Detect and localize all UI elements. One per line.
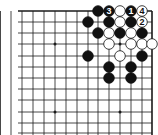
black-stone-icon xyxy=(137,51,148,62)
black-stone[interactable] xyxy=(104,73,115,84)
white-stone[interactable] xyxy=(115,51,126,62)
black-stone[interactable] xyxy=(126,73,137,84)
move-number-label: 4 xyxy=(139,6,144,16)
black-stone-icon xyxy=(115,28,126,39)
white-stone-move-4[interactable]: 4 xyxy=(137,6,148,17)
white-stone[interactable] xyxy=(147,39,158,50)
white-stone-icon xyxy=(104,39,115,50)
star-point xyxy=(54,43,57,46)
white-stone-icon xyxy=(147,39,158,50)
move-number-label: 3 xyxy=(106,6,111,16)
white-stone-icon xyxy=(104,28,115,39)
black-stone-icon xyxy=(83,17,94,28)
white-stone[interactable] xyxy=(115,6,126,17)
go-board[interactable]: 3142 xyxy=(0,0,158,135)
white-stone[interactable] xyxy=(104,39,115,50)
white-stone-icon xyxy=(115,6,126,17)
black-stone-icon xyxy=(93,28,104,39)
black-stone-icon xyxy=(126,62,137,73)
black-stone-icon xyxy=(126,73,137,84)
white-stone-icon xyxy=(126,28,137,39)
black-stone[interactable] xyxy=(126,62,137,73)
white-stone[interactable] xyxy=(104,28,115,39)
black-stone-icon xyxy=(83,51,94,62)
white-stone-icon xyxy=(137,39,148,50)
black-stone[interactable] xyxy=(115,28,126,39)
black-stone[interactable] xyxy=(93,6,104,17)
white-stone[interactable] xyxy=(115,17,126,28)
black-stone-move-1[interactable]: 1 xyxy=(126,6,137,17)
black-stone-icon xyxy=(126,17,137,28)
white-stone-icon xyxy=(115,17,126,28)
move-number-label: 1 xyxy=(128,6,133,16)
black-stone-icon xyxy=(93,6,104,17)
black-stone[interactable] xyxy=(104,17,115,28)
black-stone[interactable] xyxy=(137,51,148,62)
star-point xyxy=(119,111,122,114)
black-stone-icon xyxy=(137,28,148,39)
white-stone[interactable] xyxy=(126,28,137,39)
black-stone-icon xyxy=(104,62,115,73)
black-stone-icon xyxy=(104,17,115,28)
black-stone[interactable] xyxy=(137,28,148,39)
star-point xyxy=(119,43,122,46)
white-stone-icon xyxy=(115,51,126,62)
white-stone-icon xyxy=(126,39,137,50)
black-stone[interactable] xyxy=(126,17,137,28)
star-point xyxy=(54,111,57,114)
white-stone[interactable] xyxy=(126,39,137,50)
black-stone[interactable] xyxy=(93,28,104,39)
black-stone[interactable] xyxy=(83,51,94,62)
black-stone-move-3[interactable]: 3 xyxy=(104,6,115,17)
black-stone[interactable] xyxy=(104,62,115,73)
white-stone-move-2[interactable]: 2 xyxy=(137,17,148,28)
white-stone[interactable] xyxy=(137,39,148,50)
black-stone[interactable] xyxy=(83,17,94,28)
move-number-label: 2 xyxy=(139,17,144,27)
black-stone-icon xyxy=(104,73,115,84)
